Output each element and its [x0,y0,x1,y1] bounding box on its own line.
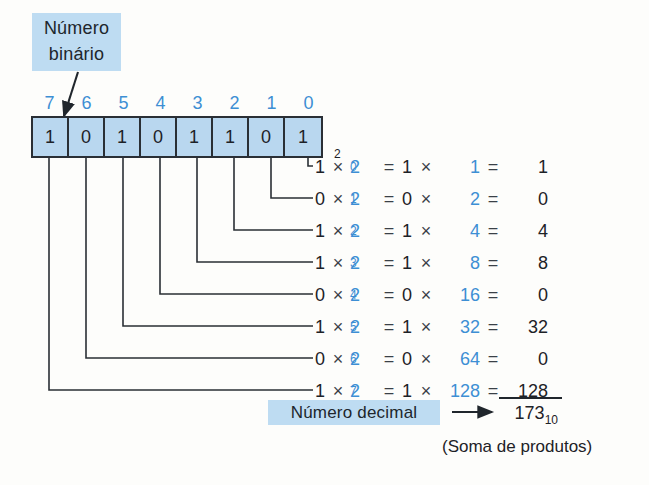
row4-bit: 0 [313,282,327,308]
row0-weight: 1 [428,154,480,180]
row2-product: 4 [496,218,548,244]
row0-product: 1 [496,154,548,180]
row1-times-1: × [330,186,346,212]
binary-register: 1 0 1 0 1 1 0 1 [31,116,323,158]
row6-product: 0 [496,346,548,372]
row4-weight: 16 [428,282,480,308]
bit-index-7: 7 [31,93,68,114]
row6-times-1: × [330,346,346,372]
bit-cell-3: 1 [177,118,213,156]
row4-product: 0 [496,282,548,308]
bit-index-6: 6 [68,93,105,114]
bit-index-0: 0 [290,93,327,114]
row6-weight: 64 [428,346,480,372]
bit-cell-2: 1 [213,118,249,156]
bit-index-1: 1 [253,93,290,114]
bit-cell-4: 0 [141,118,177,156]
row6-bit: 0 [313,346,327,372]
decimal-total-subscript: 10 [545,413,558,427]
binary-number-label-line1: Número [32,15,121,41]
bit-index-2: 2 [216,93,253,114]
bit-cell-0: 1 [285,118,321,156]
row0-bit-2: 1 [400,154,414,180]
row5-bit: 1 [313,314,327,340]
bit-cell-1: 0 [249,118,285,156]
row3-bit-2: 1 [400,250,414,276]
row2-weight: 4 [428,218,480,244]
row1-product: 0 [496,186,548,212]
row3-product: 8 [496,250,548,276]
figure-canvas: Número binário 7 6 5 4 3 2 1 0 1 0 1 0 1… [0,0,649,485]
binary-number-label: Número binário [32,13,121,71]
binary-number-label-line2: binário [32,41,121,67]
row4-times-1: × [330,282,346,308]
row5-weight: 32 [428,314,480,340]
bit-cell-5: 1 [105,118,141,156]
row5-bit-2: 1 [400,314,414,340]
row2-equals-1: = [381,218,397,244]
row1-bit-2: 0 [400,186,414,212]
row6-equals-1: = [381,346,397,372]
row1-weight: 2 [428,186,480,212]
decimal-total: 17310 [496,400,558,426]
bit-cell-6: 0 [69,118,105,156]
row2-bit: 1 [313,218,327,244]
row5-equals-1: = [381,314,397,340]
decimal-number-label: Número decimal [268,400,440,425]
bit-index-3: 3 [179,93,216,114]
bit-index-4: 4 [142,93,179,114]
row0-bit: 1 [313,154,327,180]
sum-of-products-note: (Soma de produtos) [442,437,592,457]
row1-equals-1: = [381,186,397,212]
row5-times-1: × [330,314,346,340]
bit-index-5: 5 [105,93,142,114]
row6-bit-2: 0 [400,346,414,372]
bit-cell-7: 1 [33,118,69,156]
row3-weight: 8 [428,250,480,276]
row0-times-1: × [330,154,346,180]
row1-bit: 0 [313,186,327,212]
row4-bit-2: 0 [400,282,414,308]
row3-bit: 1 [313,250,327,276]
row5-product: 32 [496,314,548,340]
decimal-total-value: 173 [515,403,545,423]
row2-times-1: × [330,218,346,244]
row4-equals-1: = [381,282,397,308]
row0-equals-1: = [381,154,397,180]
row3-equals-1: = [381,250,397,276]
row2-bit-2: 1 [400,218,414,244]
row3-times-1: × [330,250,346,276]
